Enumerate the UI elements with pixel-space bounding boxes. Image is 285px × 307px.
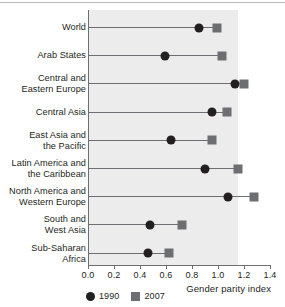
data-point-1990: [160, 51, 169, 60]
connector-line: [88, 224, 182, 225]
x-tick-0.2: [114, 265, 115, 269]
x-tick-label-1.2: 1.2: [238, 270, 251, 280]
legend-label-2007: 2007: [144, 291, 164, 301]
connector-line: [88, 168, 238, 169]
x-tick-label-0.4: 0.4: [134, 270, 147, 280]
data-point-2007: [233, 164, 242, 173]
x-axis-title: Gender parity index: [186, 283, 271, 294]
circle-marker-icon: [86, 292, 95, 301]
gender-parity-index-chart: WorldArab StatesCentral and Eastern Euro…: [0, 0, 285, 307]
x-tick-label-0.2: 0.2: [108, 270, 121, 280]
data-point-2007: [212, 23, 221, 32]
data-point-2007: [223, 108, 232, 117]
category-label: South and West Asia: [44, 214, 86, 236]
x-tick-0.0: [88, 265, 89, 269]
data-point-1990: [230, 79, 239, 88]
data-point-1990: [167, 136, 176, 145]
x-tick-label-0.8: 0.8: [186, 270, 199, 280]
category-label: Arab States: [37, 50, 86, 61]
x-tick-1.0: [218, 265, 219, 269]
chart-legend: 1990 2007: [86, 291, 165, 301]
category-label: Sub-Saharan Africa: [31, 243, 86, 265]
data-point-1990: [207, 108, 216, 117]
connector-line: [88, 55, 222, 56]
page-top-rule: [0, 2, 285, 3]
x-tick-0.4: [140, 265, 141, 269]
x-tick-0.6: [166, 265, 167, 269]
category-label: Central and Eastern Europe: [21, 73, 86, 95]
x-tick-1.4: [270, 265, 271, 269]
x-tick-0.8: [192, 265, 193, 269]
x-tick-label-0.0: 0.0: [82, 270, 95, 280]
data-point-2007: [164, 249, 173, 258]
data-point-2007: [207, 136, 216, 145]
category-label: Central Asia: [36, 107, 86, 118]
x-tick-label-0.6: 0.6: [160, 270, 173, 280]
data-point-2007: [177, 220, 186, 229]
connector-line: [88, 83, 244, 84]
data-point-1990: [201, 164, 210, 173]
legend-label-1990: 1990: [99, 291, 119, 301]
category-label: World: [62, 22, 86, 33]
square-marker-icon: [131, 292, 140, 301]
data-point-1990: [143, 249, 152, 258]
category-label: East Asia and the Pacific: [29, 130, 86, 152]
category-label: Latin America and the Caribbean: [12, 158, 86, 180]
x-tick-label-1.4: 1.4: [264, 270, 277, 280]
connector-line: [88, 253, 169, 254]
category-label: North America and Western Europe: [9, 186, 86, 208]
x-tick-label-1.0: 1.0: [212, 270, 225, 280]
x-tick-1.2: [244, 265, 245, 269]
data-point-2007: [217, 51, 226, 60]
data-point-2007: [250, 192, 259, 201]
y-axis-line: [88, 10, 89, 266]
data-point-1990: [146, 220, 155, 229]
connector-line: [88, 140, 212, 141]
data-point-1990: [194, 23, 203, 32]
legend-item-2007: 2007: [131, 291, 164, 301]
data-point-1990: [224, 192, 233, 201]
data-point-2007: [240, 79, 249, 88]
legend-item-1990: 1990: [86, 291, 119, 301]
